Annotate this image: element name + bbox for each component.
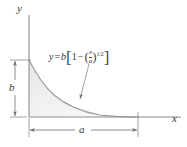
equation-bracket-close: ]: [104, 48, 110, 67]
equation-fraction-x-over-a: xa: [89, 49, 93, 65]
equation-exponent: 1/2: [97, 51, 104, 57]
curve-equation-label: y=b[1−(xa)1/2]: [49, 48, 109, 68]
figure-container: y x b a y=b[1−(xa)1/2]: [0, 0, 187, 147]
height-dimension-label: b: [9, 82, 15, 93]
equation-fraction-numerator: x: [89, 49, 93, 56]
equation-fraction-denominator: a: [89, 57, 93, 65]
equation-equals: =: [53, 51, 61, 62]
x-axis-label: x: [172, 113, 177, 124]
shaded-area-region: [29, 60, 138, 117]
equation-leader-line: [80, 64, 89, 99]
y-axis-label: y: [17, 3, 22, 14]
width-dimension-label: a: [79, 124, 85, 135]
diagram-canvas: [0, 0, 187, 147]
